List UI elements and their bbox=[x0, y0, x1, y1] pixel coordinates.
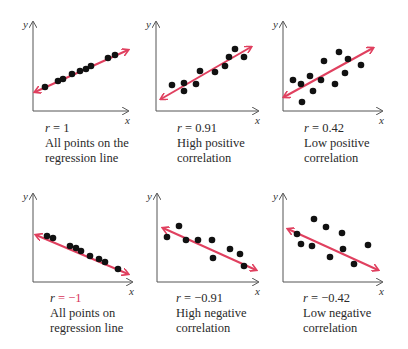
data-point bbox=[164, 234, 171, 241]
regression-line bbox=[288, 229, 378, 270]
y-axis-label: y bbox=[272, 18, 278, 30]
caption-panel-3: r = 0.42 Low positive correlation bbox=[304, 121, 370, 166]
caption-line-2: regression line bbox=[45, 151, 129, 166]
scatter-panel-4: yx bbox=[22, 190, 134, 297]
data-point bbox=[181, 88, 188, 95]
data-point bbox=[169, 82, 176, 89]
caption-line-1: Low negative bbox=[303, 306, 371, 321]
r-value-label: r = −0.91 bbox=[176, 291, 246, 306]
y-axis-label: y bbox=[145, 18, 151, 30]
caption-line-2: correlation bbox=[176, 321, 246, 336]
y-axis-label: y bbox=[272, 190, 278, 202]
data-point bbox=[102, 259, 109, 266]
data-point bbox=[307, 73, 314, 80]
data-point bbox=[237, 251, 244, 258]
data-point bbox=[195, 237, 202, 244]
caption-line-1: All points on bbox=[50, 306, 123, 321]
data-point bbox=[323, 224, 330, 231]
r-value-label: r = −1 bbox=[50, 291, 123, 306]
r-value-label: r = 0.91 bbox=[177, 121, 245, 136]
data-point bbox=[299, 99, 306, 106]
scatter-panel-5: yx bbox=[146, 190, 260, 297]
data-point bbox=[181, 80, 188, 87]
regression-line bbox=[284, 48, 373, 97]
x-axis-label: x bbox=[254, 285, 260, 297]
data-point bbox=[342, 70, 349, 77]
regression-line bbox=[36, 235, 128, 274]
scatter-panel-6: yx bbox=[272, 190, 384, 297]
x-axis-label: x bbox=[378, 285, 384, 297]
caption-line-2: regression line bbox=[50, 321, 123, 336]
data-point bbox=[77, 68, 84, 75]
data-point bbox=[318, 77, 325, 84]
x-axis-label: x bbox=[128, 285, 134, 297]
data-point bbox=[351, 261, 358, 268]
data-point bbox=[183, 237, 190, 244]
scatter-panel-1: yx bbox=[22, 18, 130, 126]
data-point bbox=[50, 235, 57, 242]
data-point bbox=[358, 62, 365, 69]
caption-line-1: High positive bbox=[177, 136, 245, 151]
r-value-label: r = 0.42 bbox=[304, 121, 370, 136]
data-point bbox=[44, 233, 51, 240]
data-point bbox=[232, 46, 239, 53]
data-point bbox=[112, 52, 119, 59]
data-point bbox=[78, 248, 85, 255]
data-point bbox=[336, 49, 343, 56]
x-axis-label: x bbox=[378, 114, 384, 126]
caption-panel-1: r = 1 All points on the regression line bbox=[45, 121, 129, 166]
caption-line-1: Low positive bbox=[304, 136, 370, 151]
data-point bbox=[310, 88, 317, 95]
caption-panel-4: r = −1 All points on regression line bbox=[50, 291, 123, 336]
data-point bbox=[309, 243, 316, 250]
y-axis-label: y bbox=[146, 190, 152, 202]
data-point bbox=[290, 77, 297, 84]
data-point bbox=[115, 266, 122, 273]
data-point bbox=[42, 84, 49, 91]
data-point bbox=[327, 254, 334, 261]
data-point bbox=[332, 81, 339, 88]
data-point bbox=[321, 58, 328, 65]
data-point bbox=[339, 230, 346, 237]
x-axis-label: x bbox=[254, 114, 260, 126]
data-point bbox=[298, 241, 305, 248]
data-point bbox=[345, 56, 352, 63]
r-value-label: r = −0.42 bbox=[303, 291, 371, 306]
data-point bbox=[87, 253, 94, 260]
regression-line bbox=[161, 47, 251, 99]
data-point bbox=[222, 63, 229, 70]
y-axis-label: y bbox=[22, 18, 28, 30]
data-point bbox=[340, 246, 347, 253]
caption-panel-6: r = −0.42 Low negative correlation bbox=[303, 291, 371, 336]
caption-line-2: correlation bbox=[177, 151, 245, 166]
data-point bbox=[311, 216, 318, 223]
data-point bbox=[88, 63, 95, 70]
data-point bbox=[241, 263, 248, 270]
caption-line-1: High negative bbox=[176, 306, 246, 321]
data-point bbox=[197, 68, 204, 75]
caption-line-1: All points on the bbox=[45, 136, 129, 151]
data-point bbox=[294, 231, 301, 238]
data-point bbox=[67, 243, 74, 250]
data-point bbox=[365, 242, 372, 249]
data-point bbox=[96, 256, 103, 263]
data-point bbox=[193, 81, 200, 88]
data-point bbox=[212, 69, 219, 76]
caption-line-2: correlation bbox=[304, 151, 370, 166]
caption-panel-2: r = 0.91 High positive correlation bbox=[177, 121, 245, 166]
data-point bbox=[209, 237, 216, 244]
caption-panel-5: r = −0.91 High negative correlation bbox=[176, 291, 246, 336]
scatter-panel-3: yx bbox=[272, 18, 384, 126]
data-point bbox=[210, 255, 217, 262]
data-point bbox=[226, 54, 233, 61]
data-point bbox=[298, 81, 305, 88]
data-point bbox=[241, 54, 248, 61]
scatter-panel-2: yx bbox=[145, 18, 260, 126]
y-axis-label: y bbox=[22, 190, 28, 202]
data-point bbox=[105, 55, 112, 62]
data-point bbox=[176, 223, 183, 230]
data-point bbox=[69, 71, 76, 78]
r-value-label: r = 1 bbox=[45, 121, 129, 136]
caption-line-2: correlation bbox=[303, 321, 371, 336]
data-point bbox=[227, 246, 234, 253]
